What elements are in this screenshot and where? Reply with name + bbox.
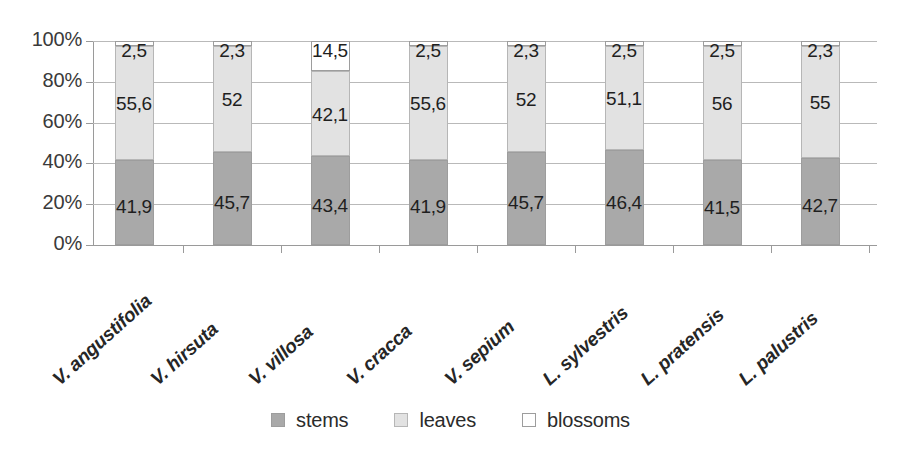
bar-group: 41,955,62,5 xyxy=(115,41,154,245)
gridline xyxy=(93,41,877,42)
gridline xyxy=(93,123,877,124)
bar-segment-label: 2,5 xyxy=(415,41,441,60)
bar-group: 43,442,114,5 xyxy=(311,41,350,245)
legend-item[interactable]: leaves xyxy=(394,409,476,432)
x-axis-category-label: V. cracca xyxy=(342,320,416,390)
bar-segment-label: 45,7 xyxy=(508,193,544,212)
bar-segment-label: 41,9 xyxy=(410,197,446,216)
bar-segment-label: 52 xyxy=(222,90,243,109)
bar-segment-label: 2,3 xyxy=(513,41,539,60)
x-axis-category-label: L. sylvestris xyxy=(538,302,632,390)
x-axis-tick-mark xyxy=(673,245,674,253)
bar-group: 46,451,12,5 xyxy=(605,41,644,245)
gridline xyxy=(93,204,877,205)
bar-segment-label: 56 xyxy=(712,94,733,113)
x-axis-tick-mark xyxy=(477,245,478,253)
y-axis-tick-mark xyxy=(86,41,93,42)
bar-segment-label: 41,5 xyxy=(704,198,740,217)
bar-segment-label: 2,5 xyxy=(611,41,637,60)
x-axis-tick-mark xyxy=(379,245,380,253)
legend-item[interactable]: stems xyxy=(271,409,348,432)
x-axis-tick-mark xyxy=(771,245,772,253)
x-axis-category-label: V. villosa xyxy=(244,321,317,390)
legend-label: leaves xyxy=(419,409,476,432)
legend-label: stems xyxy=(296,409,348,432)
y-axis-tick-mark xyxy=(86,163,93,164)
y-axis-tick-mark xyxy=(86,204,93,205)
y-axis-tick-label: 60% xyxy=(43,110,82,133)
bar-segment-label: 45,7 xyxy=(214,193,250,212)
legend: stemsleavesblossoms xyxy=(0,405,901,435)
y-axis-tick-mark xyxy=(86,123,93,124)
y-axis-tick-label: 80% xyxy=(43,69,82,92)
x-axis-tick-mark xyxy=(281,245,282,253)
bar-segment-label: 55,6 xyxy=(410,94,446,113)
y-axis-tick-mark xyxy=(86,245,93,246)
y-axis-labels: 100%80%60%40%20%0% xyxy=(0,0,82,457)
bar-segment-label: 46,4 xyxy=(606,193,642,212)
blossoms-swatch-icon xyxy=(522,413,536,427)
bar-segment-label: 2,3 xyxy=(219,41,245,60)
x-axis-tick-mark xyxy=(183,245,184,253)
bar-segment-label: 42,1 xyxy=(312,105,348,124)
bar-group: 45,7522,3 xyxy=(507,41,546,245)
plot-area: 41,955,62,545,7522,343,442,114,541,955,6… xyxy=(93,41,877,245)
bar-group: 42,7552,3 xyxy=(801,41,840,245)
stacked-bar-chart: 100%80%60%40%20%0% 41,955,62,545,7522,34… xyxy=(0,0,901,457)
bar-segment-label: 2,5 xyxy=(121,41,147,60)
x-axis-tick-mark xyxy=(869,245,870,253)
leaves-swatch-icon xyxy=(394,413,408,427)
bar-segment-label: 43,4 xyxy=(312,196,348,215)
y-axis-tick-label: 100% xyxy=(32,28,82,51)
y-axis-tick-label: 0% xyxy=(53,232,82,255)
gridline xyxy=(93,245,877,246)
x-axis-category-label: V. sepium xyxy=(440,316,519,390)
y-axis-tick-label: 40% xyxy=(43,150,82,173)
bar-segment-label: 55 xyxy=(810,93,831,112)
x-axis-category-label: L. palustris xyxy=(734,307,822,390)
bar-group: 41,955,62,5 xyxy=(409,41,448,245)
x-axis-category-label: L. pratensis xyxy=(636,304,728,390)
y-axis-tick-label: 20% xyxy=(43,191,82,214)
bar-segment-label: 2,5 xyxy=(709,41,735,60)
stems-swatch-icon xyxy=(271,413,285,427)
legend-label: blossoms xyxy=(547,409,630,432)
bar-group: 41,5562,5 xyxy=(703,41,742,245)
bar-group: 45,7522,3 xyxy=(213,41,252,245)
legend-item[interactable]: blossoms xyxy=(522,409,630,432)
bar-segment-label: 51,1 xyxy=(606,89,642,108)
bar-segment-label: 14,5 xyxy=(312,41,348,60)
gridline xyxy=(93,82,877,83)
bar-segment-label: 42,7 xyxy=(802,196,838,215)
bar-segment-label: 55,6 xyxy=(116,94,152,113)
x-axis-category-label: V. hirsuta xyxy=(146,318,222,390)
bar-segment-label: 2,3 xyxy=(807,41,833,60)
x-axis-tick-mark xyxy=(575,245,576,253)
gridline xyxy=(93,163,877,164)
y-axis-tick-mark xyxy=(86,82,93,83)
bar-segment-label: 52 xyxy=(516,90,537,109)
bar-segment-label: 41,9 xyxy=(116,197,152,216)
